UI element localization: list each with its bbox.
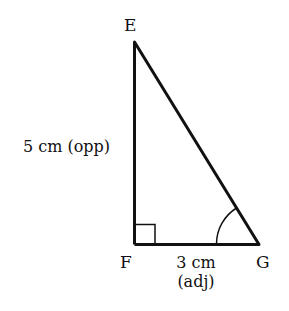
triangle-diagram: E F G 5 cm (opp) 3 cm (adj) (0, 0, 289, 311)
vertex-label-g: G (256, 252, 270, 272)
vertex-label-f: F (120, 252, 132, 272)
side-label-fg-length: 3 cm (176, 253, 215, 272)
vertex-label-e: E (124, 15, 136, 35)
side-eg-hypotenuse (135, 42, 260, 245)
side-label-fg-role: (adj) (177, 272, 214, 291)
right-angle-marker (135, 225, 155, 245)
angle-arc-g (217, 208, 237, 244)
side-label-ef: 5 cm (opp) (23, 137, 110, 156)
